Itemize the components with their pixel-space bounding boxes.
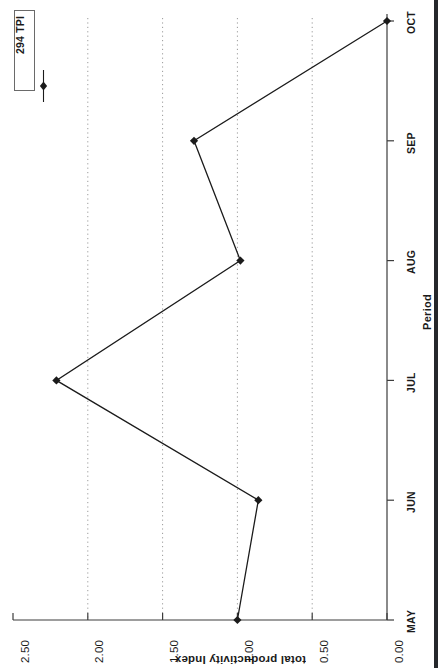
value-axis-tick-label: 2.00 [93,640,105,663]
category-axis-label: JUN [405,491,417,513]
series-294-tpi [52,17,391,624]
gridlines [88,18,312,620]
value-axis-tick-label: 0.50 [318,640,330,663]
category-axis-label: OCT [405,11,417,34]
legend-marker-icon [38,69,49,103]
category-axis-label: JUL [405,373,417,394]
line-chart-plot [0,0,443,668]
axis-ticks [13,21,394,620]
chart-page: 2.502.001.501.000.500.00 MAYJUNJULAUGSEP… [0,0,443,668]
value-axis-title: total productivity Index [175,654,306,666]
category-axis-label: SEP [405,132,417,154]
value-axis-tick-label: 0.00 [393,640,405,663]
category-axis-label: MAY [405,610,417,633]
category-axis-label: AUG [405,249,417,273]
axis-lines [13,14,387,620]
category-axis-title: Period [421,294,433,330]
legend-label: 294 TPI [14,16,26,54]
value-axis-tick-label: 2.50 [19,640,31,663]
